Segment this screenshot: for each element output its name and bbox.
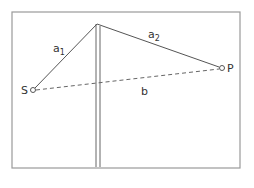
point-s-marker [31,88,36,93]
segment-a1 [35,24,97,88]
segment-b-label: b [141,85,148,98]
diagram-frame [12,12,240,168]
segment-a1-subscript: 1 [60,48,65,57]
point-s-label: S [21,84,28,97]
segment-a2-letter: a [148,28,155,41]
segment-a2-label: a2 [148,28,160,43]
geometry-diagram: S P a1 a2 b [0,0,254,188]
segment-a1-letter: a [53,42,60,55]
point-p-marker [220,66,225,71]
segment-b [36,69,219,90]
point-p-label: P [227,62,234,75]
segment-a1-label: a1 [53,42,65,57]
segment-a2 [97,24,219,67]
segment-a2-subscript: 2 [155,34,160,43]
